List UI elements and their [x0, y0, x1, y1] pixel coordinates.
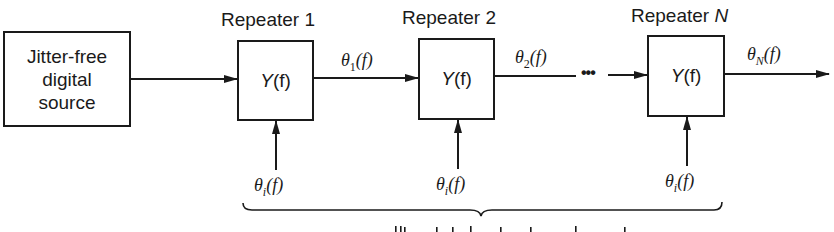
injected-jitter-label-n: θi(f): [665, 171, 694, 196]
repeater-1-box: Y(f): [237, 40, 314, 121]
source-label: Jitter-free digital source: [27, 45, 107, 114]
repeater-2-title: Repeater 2: [402, 7, 496, 29]
transfer-function: Y(f): [260, 70, 291, 92]
ellipsis-more-repeaters: •••: [581, 64, 595, 82]
repeater-title-text: Repeater: [402, 7, 480, 28]
repeater-title-text: Repeater: [631, 5, 709, 26]
signal-theta-2: θ2(f): [515, 47, 547, 72]
repeater-1-title: Repeater 1: [221, 9, 315, 31]
signal-theta-n-output: θN(f): [747, 44, 781, 69]
repeater-2-box: Y(f): [418, 38, 495, 120]
repeater-n-title: Repeater N: [631, 5, 728, 27]
curly-brace: [243, 202, 722, 216]
repeater-index: 1: [304, 9, 315, 30]
signal-theta-1: θ1(f): [341, 50, 373, 75]
repeater-title-text: Repeater: [221, 9, 299, 30]
source-line-3: source: [27, 91, 107, 114]
transfer-function: Y(f): [671, 65, 702, 87]
cut-off-caption-fragment: [395, 226, 626, 232]
source-line-2: digital: [27, 68, 107, 91]
injected-jitter-label-1: θi(f): [254, 175, 283, 200]
repeater-index: N: [714, 5, 728, 26]
source-line-1: Jitter-free: [27, 45, 107, 68]
injected-jitter-label-2: θi(f): [436, 174, 465, 199]
transfer-function: Y(f): [441, 68, 472, 90]
repeater-index: 2: [485, 7, 496, 28]
repeater-n-box: Y(f): [647, 35, 725, 117]
jitter-free-source-box: Jitter-free digital source: [3, 31, 131, 127]
